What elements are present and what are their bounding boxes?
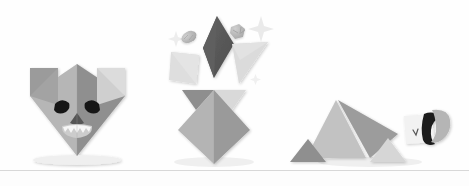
- origami-scene: Origami paper craft figures: [0, 0, 469, 186]
- origami-illustration: [0, 0, 469, 186]
- ground-band: [0, 171, 469, 186]
- wolf-head-shadow: [33, 155, 121, 165]
